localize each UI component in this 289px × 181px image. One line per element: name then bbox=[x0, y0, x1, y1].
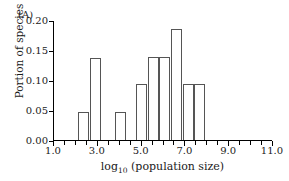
histogram-bar bbox=[183, 84, 194, 140]
x-tick-mark-minor bbox=[163, 141, 164, 145]
histogram-bar bbox=[115, 112, 126, 140]
y-axis-line bbox=[53, 21, 54, 141]
x-axis-title-subscript: 10 bbox=[118, 166, 128, 175]
x-tick-label: 5.0 bbox=[133, 145, 149, 156]
histogram-bar bbox=[194, 84, 205, 140]
y-tick-label: 0.10 bbox=[26, 75, 48, 86]
x-tick-label: 3.0 bbox=[89, 145, 105, 156]
x-tick-label: 1.0 bbox=[45, 145, 61, 156]
y-tick-label: 0.05 bbox=[26, 105, 48, 116]
x-tick-mark-minor bbox=[86, 141, 87, 145]
x-tick-mark-minor bbox=[64, 141, 65, 145]
x-tick-mark-minor bbox=[119, 141, 120, 145]
y-tick-mark bbox=[49, 111, 53, 112]
x-tick-mark-minor bbox=[75, 141, 76, 145]
x-tick-label: 7.0 bbox=[176, 145, 192, 156]
x-axis-title-base: log bbox=[101, 160, 118, 173]
x-tick-mark-minor bbox=[195, 141, 196, 145]
x-tick-mark-minor bbox=[152, 141, 153, 145]
y-tick-mark bbox=[49, 81, 53, 82]
x-tick-mark-minor bbox=[250, 141, 251, 145]
x-tick-mark-minor bbox=[217, 141, 218, 145]
x-tick-mark-minor bbox=[130, 141, 131, 145]
histogram-bar bbox=[171, 29, 182, 140]
histogram-bar bbox=[159, 57, 170, 140]
figure-panel-a: (A) Portion of species log10 (population… bbox=[0, 0, 289, 181]
histogram-bar bbox=[148, 57, 159, 140]
y-tick-label: 0.20 bbox=[26, 15, 48, 26]
x-axis-title: log10 (population size) bbox=[53, 160, 272, 175]
histogram-bar bbox=[78, 112, 89, 140]
x-tick-mark-minor bbox=[206, 141, 207, 145]
plot-area: 0.000.050.100.150.20 1.03.05.07.09.011.0 bbox=[53, 21, 272, 141]
x-tick-label: 11.0 bbox=[261, 145, 283, 156]
x-tick-mark-minor bbox=[173, 141, 174, 145]
histogram-bar bbox=[90, 58, 101, 140]
x-tick-label: 9.0 bbox=[220, 145, 236, 156]
histogram-bar bbox=[136, 84, 147, 140]
y-tick-mark bbox=[49, 51, 53, 52]
y-axis-title: Portion of species bbox=[13, 1, 25, 101]
x-tick-mark-minor bbox=[239, 141, 240, 145]
x-axis-title-rest: (population size) bbox=[128, 160, 225, 173]
y-tick-label: 0.15 bbox=[26, 45, 48, 56]
x-tick-mark-minor bbox=[108, 141, 109, 145]
y-tick-mark bbox=[49, 21, 53, 22]
